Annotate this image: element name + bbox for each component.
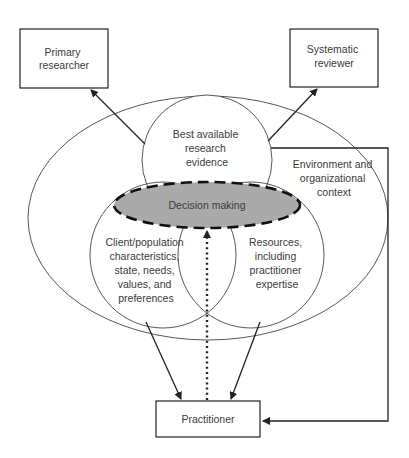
practitioner-label: Practitioner [181,413,235,425]
client-label: Client/population characteristics, state… [105,236,186,304]
arrow-to-systematic-reviewer [268,89,317,141]
resources-label: Resources, including practitioner expert… [249,236,305,290]
arrow-to-primary-researcher [91,90,145,144]
evidence-based-practice-diagram: Primary researcher Systematic reviewer B… [0,0,409,458]
arrow-client-to-practitioner [146,322,181,399]
decision-making-label: Decision making [168,199,245,211]
arrow-resources-to-practitioner [231,322,260,399]
environment-label: Environment and organizational context [293,158,375,198]
primary-researcher-label: Primary researcher [39,46,90,71]
